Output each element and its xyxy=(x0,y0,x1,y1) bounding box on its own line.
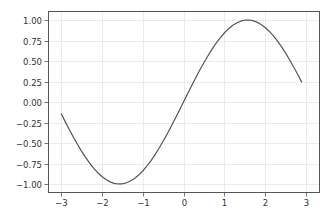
y-tick-label: 1.00 xyxy=(23,16,42,26)
y-tick-label: −0.25 xyxy=(16,119,42,129)
y-tick-label: 0.50 xyxy=(23,57,42,67)
x-tick-label: 2 xyxy=(263,198,268,208)
x-tick-label: −3 xyxy=(55,198,68,208)
y-tick-label: −0.75 xyxy=(16,160,42,170)
y-tick-label: 0.75 xyxy=(23,37,42,47)
x-axis-ticks: −3−2−10123 xyxy=(55,193,309,208)
x-tick-label: 3 xyxy=(304,198,309,208)
y-axis-ticks: 1.000.750.500.250.00−0.25−0.50−0.75−1.00 xyxy=(16,16,48,190)
y-tick-label: 0.00 xyxy=(23,98,42,108)
x-tick-label: 1 xyxy=(222,198,227,208)
x-tick-label: 0 xyxy=(182,198,187,208)
y-tick-label: −1.00 xyxy=(16,180,42,190)
y-tick-label: −0.50 xyxy=(16,139,42,149)
y-tick-label: 0.25 xyxy=(23,78,42,88)
sine-line-chart: −3−2−10123 1.000.750.500.250.00−0.25−0.5… xyxy=(0,0,330,222)
x-tick-label: −2 xyxy=(96,198,109,208)
x-tick-label: −1 xyxy=(137,198,150,208)
